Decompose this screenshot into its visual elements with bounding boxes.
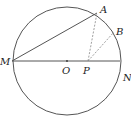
label-N: N <box>122 72 131 83</box>
label-B: B <box>115 26 123 37</box>
geometry-diagram: M N O P A B <box>0 0 131 124</box>
label-O: O <box>62 65 70 76</box>
label-M: M <box>0 56 11 67</box>
dashed-PA <box>88 13 97 61</box>
dashed-PB <box>88 32 114 61</box>
label-A: A <box>99 4 107 15</box>
center-dot-O <box>66 60 68 62</box>
chord-MA <box>12 13 97 61</box>
label-P: P <box>82 65 90 76</box>
